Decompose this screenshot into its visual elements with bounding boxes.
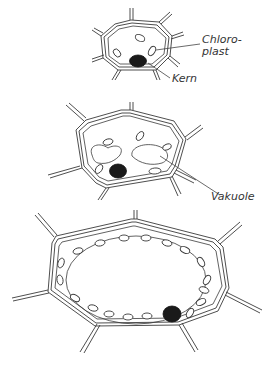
label-kern: Kern (172, 73, 197, 85)
label-chloroplast: Chloro- plast (202, 34, 242, 58)
label-vakuole: Vakuole (211, 191, 254, 203)
growing-cell (48, 102, 220, 200)
diagram-stage: Chloro- plast Kern Vakuole (0, 0, 274, 368)
mature-cell (12, 210, 262, 353)
young-cell (92, 8, 200, 80)
